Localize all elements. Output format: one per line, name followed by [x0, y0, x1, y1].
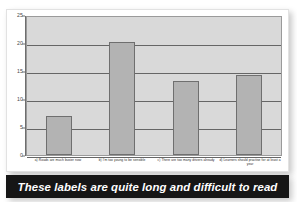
bar-slot: [154, 17, 218, 155]
bar: [46, 116, 72, 155]
bar-slot: [218, 17, 282, 155]
y-tick-mark: [22, 72, 25, 73]
y-tick-mark: [22, 156, 25, 157]
chart-plot-container: 0510152025 a) Roads are much busier nowb…: [7, 10, 288, 171]
top-cutoff-text: [0, 0, 297, 8]
bar-slot: [91, 17, 155, 155]
y-tick-mark: [22, 128, 25, 129]
x-tick-label: b) I'm too young to be sensible: [90, 158, 154, 162]
figure-root: 0510152025 a) Roads are much busier nowb…: [0, 0, 297, 202]
bar: [236, 75, 262, 155]
bar-series: [27, 17, 281, 155]
x-tick-label: a) Roads are much busier now: [26, 158, 90, 162]
x-axis-category-labels: a) Roads are much busier nowb) I'm too y…: [26, 158, 282, 172]
x-tick-label: d) Learners should practise for at least…: [218, 158, 282, 166]
caption-label: These labels are quite long and difficul…: [6, 181, 289, 193]
y-axis-tick-labels: 0510152025: [9, 16, 23, 156]
y-tick-mark: [22, 44, 25, 45]
y-tick-mark: [22, 100, 25, 101]
bar: [109, 42, 135, 155]
caption-bar: These labels are quite long and difficul…: [6, 175, 289, 198]
bar: [173, 81, 199, 155]
chart-card: 0510152025 a) Roads are much busier nowb…: [6, 9, 289, 172]
x-tick-label: c) There are too many drivers already: [154, 158, 218, 162]
y-tick-mark: [22, 16, 25, 17]
plot-area: [26, 16, 282, 156]
bar-slot: [27, 17, 91, 155]
